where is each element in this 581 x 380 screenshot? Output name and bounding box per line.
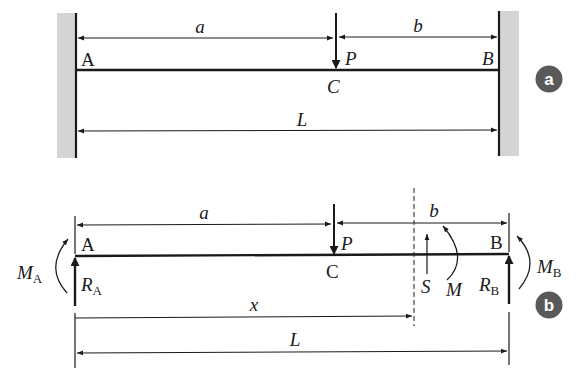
- dim-a-label: a: [195, 16, 205, 37]
- load-p-label: P: [340, 233, 353, 254]
- moment-arc-section: [443, 226, 458, 280]
- point-c-label: C: [327, 76, 340, 97]
- point-b-label: B: [482, 48, 494, 69]
- dim-x-label: x: [249, 294, 259, 315]
- moment-arc-b: [517, 236, 530, 289]
- shear-s-label: S: [421, 276, 431, 297]
- beam-b: [75, 254, 509, 256]
- dim-b-label: b: [413, 15, 423, 36]
- point-c-label: C: [326, 261, 339, 282]
- fixed-beam-diagram: a b A P B C L a: [0, 0, 581, 380]
- moment-b-label: MB: [536, 256, 562, 280]
- svg-text:RA: RA: [80, 274, 103, 298]
- svg-text:b: b: [544, 296, 554, 315]
- dim-L-line: [77, 351, 507, 353]
- dim-L-label: L: [296, 109, 308, 130]
- left-wall: [57, 13, 76, 158]
- right-wall: [500, 11, 519, 156]
- dim-b-label: b: [429, 200, 439, 221]
- point-a-label: A: [81, 49, 95, 70]
- svg-text:MA: MA: [16, 262, 43, 286]
- dim-a-line: [77, 224, 331, 225]
- reaction-a-label: RA: [80, 274, 103, 298]
- dim-L-line: [78, 130, 497, 131]
- svg-text:a: a: [544, 70, 554, 89]
- svg-text:MB: MB: [536, 256, 562, 280]
- dim-a-label: a: [199, 202, 209, 223]
- badge-b: b: [536, 292, 563, 319]
- figure-a: a b A P B C L a: [57, 11, 563, 158]
- point-a-label: A: [81, 234, 95, 255]
- figure-b: a b A P B C MA RA RB MB S M x L b: [16, 188, 563, 368]
- moment-a-label: MA: [16, 262, 43, 286]
- reaction-b-label: RB: [478, 274, 500, 298]
- dim-L-label: L: [289, 329, 301, 350]
- load-p-label: P: [344, 48, 357, 69]
- moment-arc-a: [56, 239, 68, 293]
- badge-a: a: [536, 66, 563, 93]
- dim-x-line: [75, 316, 412, 318]
- point-b-label: B: [490, 232, 503, 253]
- svg-text:RB: RB: [478, 274, 500, 298]
- moment-section-label: M: [445, 279, 463, 300]
